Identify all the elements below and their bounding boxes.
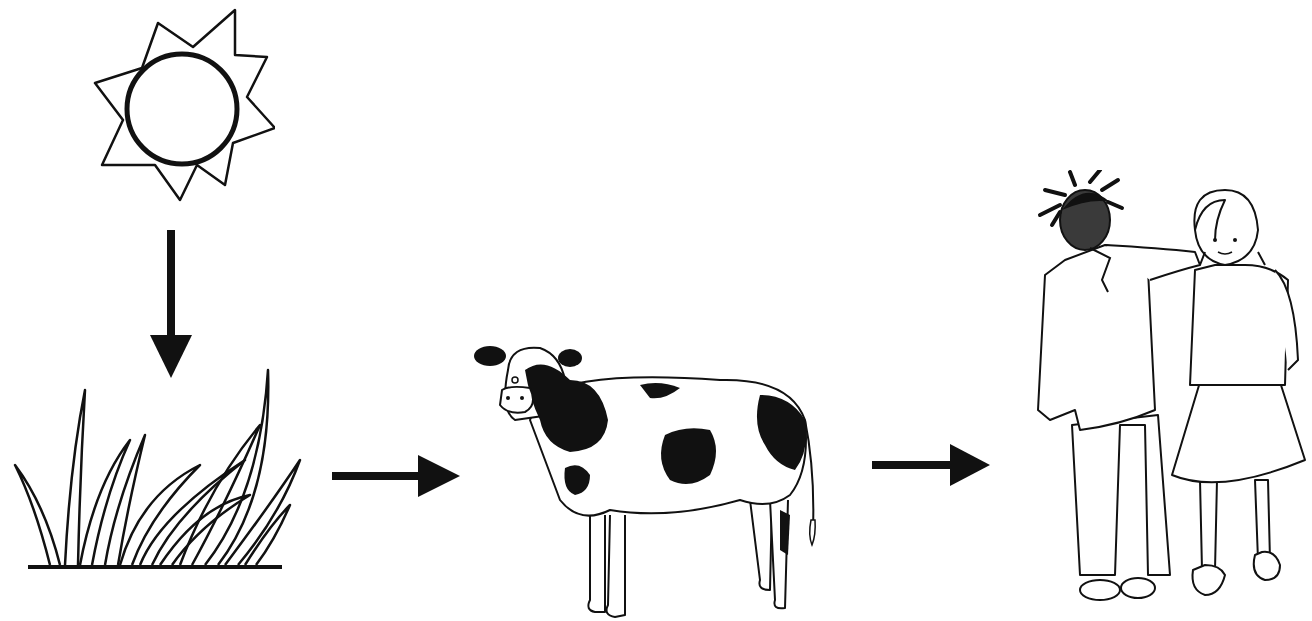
grass-icon: Grass [10, 365, 310, 575]
sun-icon: Sun [85, 5, 275, 205]
cow-icon: Cow [470, 340, 820, 620]
humans-icon: Humans [1030, 170, 1310, 610]
arrow-right-icon [872, 442, 992, 488]
arrow-down-icon [148, 230, 194, 380]
arrow-right-icon [332, 453, 462, 499]
